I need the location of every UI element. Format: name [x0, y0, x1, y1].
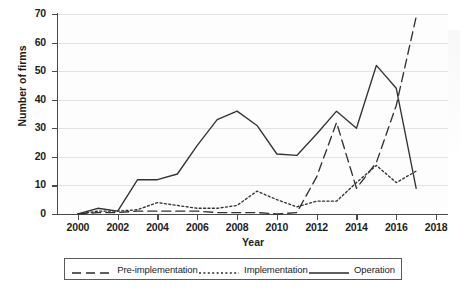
legend-item-implementation[interactable]: Implementation — [198, 264, 308, 275]
x-tick-mark — [317, 215, 318, 220]
x-tick-label: 2014 — [336, 221, 376, 233]
legend-swatch-dashed-icon — [71, 264, 113, 274]
x-tick-label: 2010 — [257, 221, 297, 233]
x-tick-mark — [197, 215, 198, 220]
x-tick-mark — [356, 215, 357, 220]
x-tick-label: 2012 — [297, 221, 337, 233]
y-tick-label: 10 — [0, 178, 46, 190]
y-tick-label: 0 — [0, 207, 46, 219]
chart-legend: Pre-implementationImplementationOperatio… — [64, 258, 402, 280]
x-tick-mark — [436, 215, 437, 220]
series-line-pre-implementation — [78, 17, 416, 214]
chart-figure: 010203040506070 200020022004200620082010… — [0, 0, 469, 289]
legend-label: Implementation — [244, 264, 308, 275]
x-tick-label: 2016 — [376, 221, 416, 233]
x-tick-mark — [237, 215, 238, 220]
legend-label: Operation — [354, 264, 395, 275]
x-axis-title: Year — [58, 236, 448, 248]
x-tick-label: 2006 — [177, 221, 217, 233]
legend-item-operation[interactable]: Operation — [308, 264, 395, 275]
x-tick-mark — [118, 215, 119, 220]
legend-item-pre-implementation[interactable]: Pre-implementation — [71, 264, 198, 275]
plot-wrapper: 010203040506070 200020022004200620082010… — [0, 0, 469, 289]
legend-swatch-dotted-icon — [198, 264, 240, 274]
y-tick-label: 20 — [0, 150, 46, 162]
series-lines — [58, 14, 448, 214]
legend-label: Pre-implementation — [117, 264, 198, 275]
x-tick-mark — [78, 215, 79, 220]
x-tick-mark — [396, 215, 397, 220]
x-tick-label: 2002 — [98, 221, 138, 233]
x-tick-mark — [277, 215, 278, 220]
legend-swatch-solid-icon — [308, 264, 350, 274]
series-line-operation — [78, 65, 416, 214]
y-axis-title: Number of firms — [16, 26, 28, 146]
x-tick-label: 2018 — [416, 221, 456, 233]
x-tick-label: 2004 — [137, 221, 177, 233]
y-tick-label: 70 — [0, 7, 46, 19]
x-tick-mark — [157, 215, 158, 220]
x-tick-label: 2000 — [58, 221, 98, 233]
x-axis-line — [57, 214, 448, 215]
x-tick-label: 2008 — [217, 221, 257, 233]
series-line-implementation — [78, 165, 416, 214]
